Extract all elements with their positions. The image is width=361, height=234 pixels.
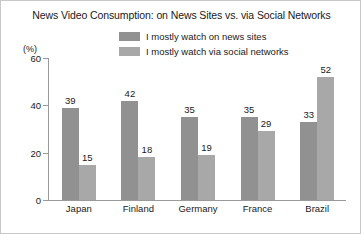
- chart-title: News Video Consumption: on News Sites vs…: [1, 9, 361, 21]
- bar-value-label: 18: [142, 144, 153, 155]
- bar-value-label: 33: [303, 109, 314, 120]
- bar-value-label: 42: [125, 88, 136, 99]
- bar: 35: [241, 117, 258, 200]
- bar-value-label: 35: [244, 104, 255, 115]
- bar: 35: [181, 117, 198, 200]
- bar-value-label: 15: [82, 152, 93, 163]
- bar-group: 4218: [121, 58, 155, 200]
- y-axis-tick-label: 60: [7, 53, 41, 64]
- y-axis-tick-label: 0: [7, 195, 41, 206]
- bar: 29: [258, 131, 275, 200]
- bar: 52: [317, 77, 334, 200]
- bar-value-label: 29: [261, 118, 272, 129]
- y-axis-tick-label: 20: [7, 147, 41, 158]
- x-axis-line: [48, 200, 346, 201]
- y-axis-tick: [43, 200, 48, 201]
- x-axis-category-label: Germany: [178, 203, 217, 214]
- bar-value-label: 19: [201, 142, 212, 153]
- legend-item-news-sites: I mostly watch on news sites: [119, 30, 289, 43]
- bar: 15: [79, 165, 96, 201]
- legend-item-label: I mostly watch on news sites: [146, 31, 266, 42]
- bar: 42: [121, 101, 138, 200]
- legend-item-label: I mostly watch via social networks: [146, 46, 289, 57]
- bar-group: 3529: [241, 58, 275, 200]
- bar-group: 3519: [181, 58, 215, 200]
- plot-area: 39154218351935293352: [48, 58, 346, 200]
- legend-swatch-icon: [119, 32, 140, 41]
- bar: 18: [138, 157, 155, 200]
- y-axis-tick-label: 40: [7, 100, 41, 111]
- bar: 33: [300, 122, 317, 200]
- bar: 39: [62, 108, 79, 200]
- x-axis-category-label: Finland: [123, 203, 154, 214]
- x-axis-category-label: France: [243, 203, 273, 214]
- bar-group: 3352: [300, 58, 334, 200]
- legend-item-social-networks: I mostly watch via social networks: [119, 45, 289, 58]
- chart-figure: News Video Consumption: on News Sites vs…: [0, 0, 361, 234]
- bar-group: 3915: [62, 58, 96, 200]
- x-axis-category-label: Brazil: [305, 203, 329, 214]
- x-axis-category-label: Japan: [66, 203, 92, 214]
- legend-swatch-icon: [119, 47, 140, 56]
- bar: 19: [198, 155, 215, 200]
- bar-value-label: 35: [184, 104, 195, 115]
- bar-value-label: 52: [320, 64, 331, 75]
- bar-value-label: 39: [65, 95, 76, 106]
- chart-legend: I mostly watch on news sites I mostly wa…: [119, 30, 289, 60]
